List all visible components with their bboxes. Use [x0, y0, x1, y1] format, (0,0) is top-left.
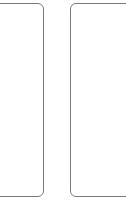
- right-panel: [70, 3, 126, 197]
- left-panel: [0, 3, 44, 197]
